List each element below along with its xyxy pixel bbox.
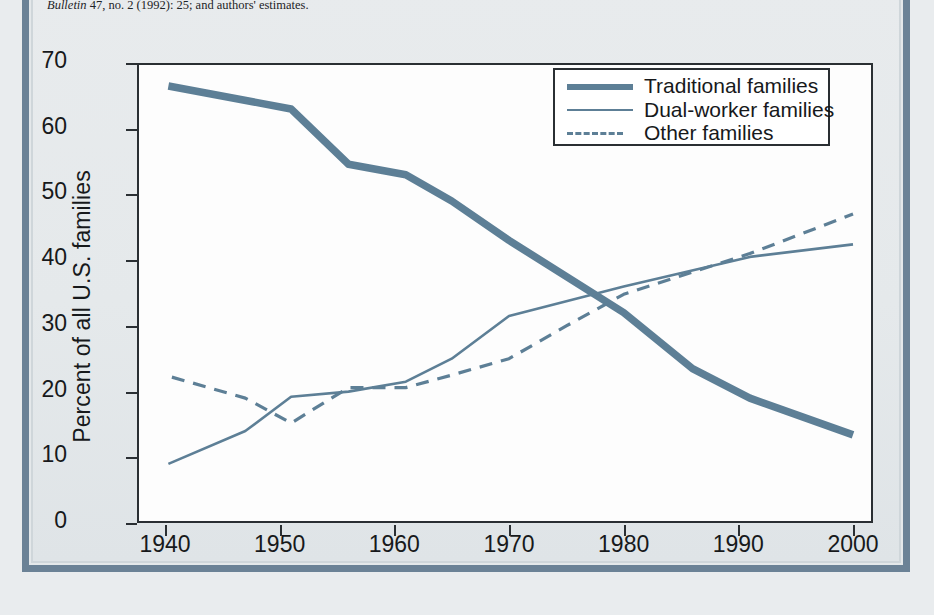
- legend-label-traditional: Traditional families: [644, 74, 818, 98]
- y-tick-label: 10: [21, 441, 67, 468]
- y-tick-label: 50: [21, 178, 67, 205]
- y-tick-label: 30: [21, 310, 67, 337]
- legend-item-dual-worker: Dual-worker families: [565, 98, 834, 122]
- series-line-dual-worker-families: [168, 244, 853, 464]
- y-tick-mark: [126, 194, 137, 196]
- y-tick-mark: [126, 392, 137, 394]
- y-tick-mark: [126, 260, 137, 262]
- y-tick-mark: [126, 129, 137, 131]
- legend-label-other: Other families: [644, 121, 774, 145]
- legend-item-other: Other families: [565, 121, 774, 145]
- legend-line-thin-icon: [565, 99, 635, 121]
- scanned-page: Sources: ... U.S. Bureau of Labor Statis…: [0, 0, 934, 615]
- x-tick-mark: [165, 525, 167, 536]
- y-tick-label: 60: [21, 113, 67, 140]
- x-tick-mark: [394, 525, 396, 536]
- x-tick-mark: [853, 525, 855, 536]
- y-tick-label: 40: [21, 244, 67, 271]
- y-tick-label: 0: [21, 507, 67, 534]
- y-tick-mark: [126, 523, 137, 525]
- x-tick-mark: [509, 525, 511, 536]
- x-tick-mark: [280, 525, 282, 536]
- y-tick-mark: [126, 457, 137, 459]
- y-tick-label: 70: [21, 47, 67, 74]
- legend-label-dual-worker: Dual-worker families: [644, 98, 834, 122]
- chart-legend: Traditional families Dual-worker familie…: [553, 68, 830, 146]
- legend-line-thick-icon: [565, 75, 635, 97]
- y-tick-mark: [126, 63, 137, 65]
- x-tick-mark: [738, 525, 740, 536]
- y-axis-title: Percent of all U.S. families: [69, 97, 96, 517]
- y-tick-label: 20: [21, 376, 67, 403]
- x-tick-mark: [624, 525, 626, 536]
- legend-item-traditional: Traditional families: [565, 74, 818, 98]
- legend-line-dashed-icon: [565, 122, 635, 144]
- chart: Percent of all U.S. families 70605040302…: [0, 0, 934, 615]
- y-tick-mark: [126, 326, 137, 328]
